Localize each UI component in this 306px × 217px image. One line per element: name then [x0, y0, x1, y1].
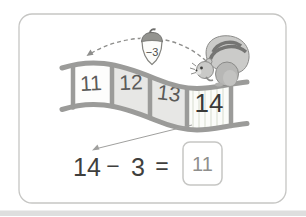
- equation-equals-sign: =: [155, 153, 168, 179]
- squirrel-foot: [215, 83, 223, 87]
- track-cell-11: 11: [73, 64, 112, 108]
- answer-value: 11: [192, 153, 213, 175]
- squirrel-haunch: [223, 70, 237, 86]
- equation-minuend: 14: [73, 153, 101, 181]
- acorn-value-label: −3: [146, 46, 159, 58]
- page-edge-strip: [0, 211, 306, 217]
- equation-operator: −: [106, 153, 119, 179]
- squirrel-nose: [196, 70, 198, 72]
- squirrel-eye: [200, 67, 203, 70]
- worksheet-page: 11 12 13: [0, 0, 306, 216]
- equation-subtrahend: 3: [131, 153, 145, 181]
- exercise-illustration: 11 12 13: [0, 0, 306, 216]
- cell-number: 11: [80, 71, 103, 95]
- track-cell-14: 14: [187, 85, 231, 130]
- cell-number: 14: [195, 88, 224, 118]
